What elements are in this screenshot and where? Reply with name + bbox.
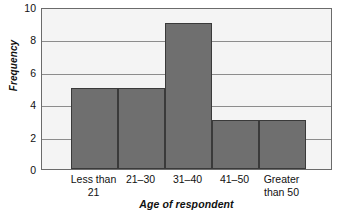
x-tick-label-line1: 31–40 — [173, 173, 202, 185]
bars-group — [42, 9, 331, 169]
y-axis-tick-labels: 0246810 — [0, 0, 36, 216]
bar — [259, 120, 306, 169]
y-tick-label: 4 — [2, 99, 36, 111]
x-tick-label-line1: Greater — [264, 173, 300, 185]
bar — [71, 88, 118, 169]
x-tick-label-line2: 21 — [61, 186, 127, 199]
bar — [165, 23, 212, 169]
bar — [118, 88, 165, 169]
y-tick-label: 2 — [2, 132, 36, 144]
y-tick-label: 6 — [2, 67, 36, 79]
histogram-figure: Frequency 0246810 Less than2121–3031–404… — [0, 0, 339, 216]
y-tick-label: 8 — [2, 34, 36, 46]
x-tick-label-line1: 41–50 — [220, 173, 249, 185]
y-tick-label: 0 — [2, 164, 36, 176]
x-axis-title: Age of respondent — [41, 198, 332, 210]
plot-area — [41, 8, 332, 170]
bar — [212, 120, 259, 169]
y-tick-label: 10 — [2, 2, 36, 14]
x-tick-label: Greaterthan 50 — [249, 173, 315, 198]
x-tick-label-line1: 21–30 — [126, 173, 155, 185]
x-tick-label-line2: than 50 — [249, 186, 315, 199]
